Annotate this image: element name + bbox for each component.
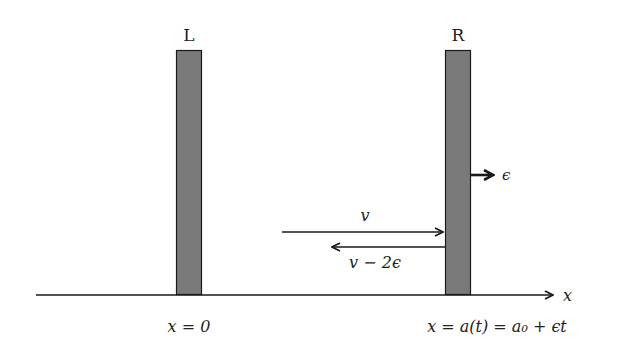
- reflected-velocity-label: v − 2ϵ: [349, 253, 401, 272]
- diagram-canvas: x L x = 0 R x = a(t) = a₀ + ϵt ϵ v v − 2…: [0, 0, 623, 355]
- wall-velocity-label: ϵ: [502, 166, 511, 184]
- right-wall-label: R: [452, 25, 466, 45]
- left-wall: [177, 51, 202, 295]
- x-axis-label: x: [563, 286, 572, 305]
- incoming-velocity-label: v: [360, 206, 369, 225]
- right-wall: [446, 51, 471, 295]
- left-wall-position: x = 0: [168, 317, 211, 336]
- right-wall-position: x = a(t) = a₀ + ϵt: [427, 317, 567, 336]
- left-wall-label: L: [183, 25, 194, 45]
